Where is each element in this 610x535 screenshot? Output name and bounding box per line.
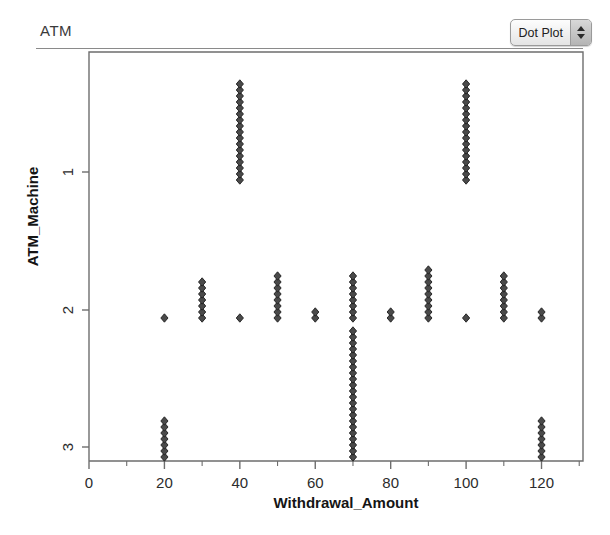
dot-stacks [161,80,545,461]
dot-plot-svg: 020406080100120123Withdrawal_AmountATM_M… [0,0,610,535]
data-point [349,327,356,335]
data-point [236,80,243,88]
x-tick-label: 40 [231,474,248,491]
data-point [161,417,168,425]
dot-stack [538,417,545,461]
y-tick-label: 1 [59,168,76,176]
dot-stack [199,278,206,322]
dot-stack [387,308,394,322]
y-axis-title: ATM_Machine [24,167,41,267]
x-tick-label: 20 [156,474,173,491]
dot-stack [349,327,356,461]
x-tick-label: 100 [454,474,479,491]
y-axis-ticks: 123 [59,168,89,451]
dot-stack [349,272,356,322]
dot-stack [236,80,243,184]
data-point [538,308,545,316]
data-point [387,308,394,316]
data-point [500,272,507,280]
data-point [274,272,281,280]
data-point [462,80,469,88]
x-axis-title: Withdrawal_Amount [274,494,419,511]
plot-frame [89,52,583,461]
dot-stack [538,308,545,322]
data-point [462,314,469,322]
dot-plot-panel: ATM Dot Plot 020406080100120123Withdrawa… [0,0,610,535]
dot-stack [462,80,469,184]
dot-stack [462,314,469,322]
dot-stack [236,314,243,322]
y-tick-label: 3 [59,443,76,451]
dot-stack [161,417,168,461]
dot-stack [500,272,507,322]
dot-stack [274,272,281,322]
x-tick-label: 0 [85,474,93,491]
x-tick-label: 60 [307,474,324,491]
data-point [349,272,356,280]
data-point [161,314,168,322]
x-tick-label: 120 [529,474,554,491]
chart-canvas: 020406080100120123Withdrawal_AmountATM_M… [0,0,610,535]
y-tick-label: 2 [59,306,76,314]
data-point [199,278,206,286]
dot-stack [312,308,319,322]
dot-stack [161,314,168,322]
data-point [425,266,432,274]
data-point [236,314,243,322]
data-point [312,308,319,316]
x-axis-ticks: 020406080100120 [85,461,579,491]
x-tick-label: 80 [382,474,399,491]
dot-stack [425,266,432,322]
data-point [538,417,545,425]
